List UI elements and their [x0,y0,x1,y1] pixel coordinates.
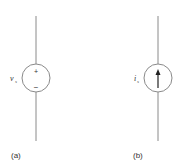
circuit-diagram: + − v s (a) i s (b) [0,0,188,167]
caption-b: (b) [133,151,143,160]
voltage-variable: v [10,74,14,83]
current-source-panel: i s (b) [133,16,172,160]
current-subscript: s [137,79,139,84]
minus-sign: − [34,83,39,92]
current-variable: i [134,74,136,83]
caption-a: (a) [11,151,21,160]
arrow-head-icon [156,69,161,75]
plus-sign: + [34,68,38,75]
voltage-source-panel: + − v s (a) [10,16,50,160]
voltage-subscript: s [15,79,17,84]
